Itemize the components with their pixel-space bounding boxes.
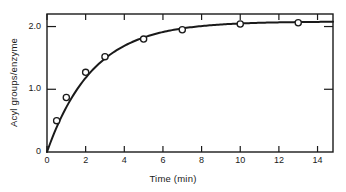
data-point-marker bbox=[179, 27, 185, 33]
x-tick-label: 6 bbox=[153, 155, 173, 165]
x-tick-label: 2 bbox=[76, 155, 96, 165]
x-tick-label: 14 bbox=[308, 155, 328, 165]
y-tick-label: 0 bbox=[17, 146, 41, 156]
data-point-marker bbox=[83, 69, 89, 75]
y-axis-ticks-right bbox=[324, 27, 333, 90]
x-axis-ticks-bottom bbox=[47, 146, 318, 152]
x-tick-label: 10 bbox=[230, 155, 250, 165]
x-tick-label: 8 bbox=[192, 155, 212, 165]
data-point-marker bbox=[63, 94, 69, 100]
data-point-marker bbox=[141, 36, 147, 42]
y-tick-label: 1.0 bbox=[17, 83, 41, 93]
y-tick-label: 2.0 bbox=[17, 21, 41, 31]
x-tick-label: 0 bbox=[37, 155, 57, 165]
x-axis-title: Time (min) bbox=[0, 173, 346, 184]
chart-figure: Time (min) Acyl groups/enzyme 0246810121… bbox=[0, 0, 346, 192]
data-point-marker bbox=[102, 54, 108, 60]
plot-frame bbox=[47, 14, 333, 152]
data-point-marker bbox=[54, 118, 60, 124]
data-point-marker bbox=[237, 21, 243, 27]
x-tick-label: 12 bbox=[269, 155, 289, 165]
data-curve bbox=[47, 22, 333, 152]
x-axis-ticks-top bbox=[47, 14, 318, 20]
y-axis-ticks-left bbox=[47, 27, 56, 90]
x-tick-label: 4 bbox=[114, 155, 134, 165]
data-point-marker bbox=[295, 20, 301, 26]
